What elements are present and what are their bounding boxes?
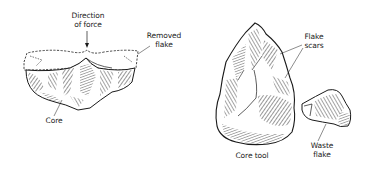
label-core: Core [42, 117, 66, 126]
core-tool-illustration [216, 23, 295, 145]
label-waste-flake: Waste flake [308, 142, 336, 159]
core-illustration [24, 50, 138, 110]
label-removed-line2: flake [146, 41, 182, 50]
stone-tool-diagram: Direction of force Removed flake Core Fl… [0, 0, 370, 174]
label-waste-line2: flake [308, 151, 336, 160]
waste-flake-leader [318, 124, 326, 141]
label-direction-of-force: Direction of force [70, 12, 106, 29]
force-arrow-head-icon [85, 43, 89, 48]
waste-flake-illustration [302, 90, 351, 127]
label-flake-scars: Flake scars [300, 33, 328, 50]
label-scars-line2: scars [300, 42, 328, 51]
label-direction-line2: of force [70, 21, 106, 30]
label-core-tool: Core tool [232, 152, 272, 161]
flake-scars-leader-2 [285, 48, 303, 78]
flake-scars-leader-1 [280, 45, 302, 54]
label-removed-flake: Removed flake [146, 32, 182, 49]
